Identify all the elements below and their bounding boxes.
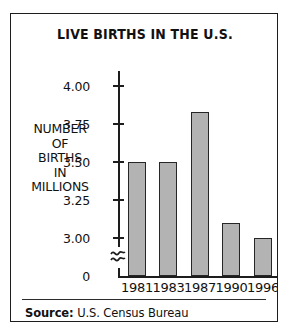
axis-break-icon — [110, 247, 127, 268]
x-axis-line — [118, 276, 277, 278]
y-tick-mark-3.25 — [113, 199, 124, 201]
y-axis-label-line-1: NUMBER — [17, 122, 103, 137]
x-tick-label-1996: 1996 — [247, 280, 278, 295]
x-tick-label-1990: 1990 — [216, 280, 248, 295]
bar-1983 — [159, 162, 177, 276]
bar-1981 — [128, 162, 146, 276]
bar-1987 — [191, 112, 209, 276]
plot-area: 4.00 3.75 3.50 3.25 3.00 0 NUMBER OF BIR… — [11, 14, 278, 282]
y-tick-label-4.00: 4.00 — [63, 79, 90, 94]
source-value: U.S. Census Bureau — [77, 306, 188, 320]
x-tick-label-1981: 1981 — [121, 280, 153, 295]
x-tick-label-1987: 1987 — [184, 280, 216, 295]
y-axis-label-line-2: OF — [17, 137, 103, 152]
y-tick-label-0: 0 — [82, 269, 90, 284]
y-axis-label: NUMBER OF BIRTHS IN MILLIONS — [17, 122, 103, 195]
bar-1996 — [254, 238, 272, 276]
y-tick-label-3.25: 3.25 — [63, 193, 90, 208]
y-tick-mark-4.00 — [113, 85, 124, 87]
bar-1990 — [222, 223, 240, 276]
y-tick-mark-3.75 — [113, 123, 124, 125]
source-label: Source: — [25, 306, 74, 320]
y-axis-label-line-4: IN — [17, 166, 103, 181]
y-tick-label-3.00: 3.00 — [63, 231, 90, 246]
footer-divider — [22, 299, 266, 300]
y-axis-label-line-5: MILLIONS — [17, 180, 103, 195]
chart-figure: LIVE BIRTHS IN THE U.S. 4.00 3.75 3.50 3… — [10, 13, 278, 322]
x-tick-label-1983: 1983 — [153, 280, 185, 295]
source-note: Source: U.S. Census Bureau — [25, 306, 188, 320]
y-tick-mark-3.00 — [113, 237, 124, 239]
y-axis-label-line-3: BIRTHS — [17, 151, 103, 166]
y-tick-mark-3.50 — [113, 161, 124, 163]
